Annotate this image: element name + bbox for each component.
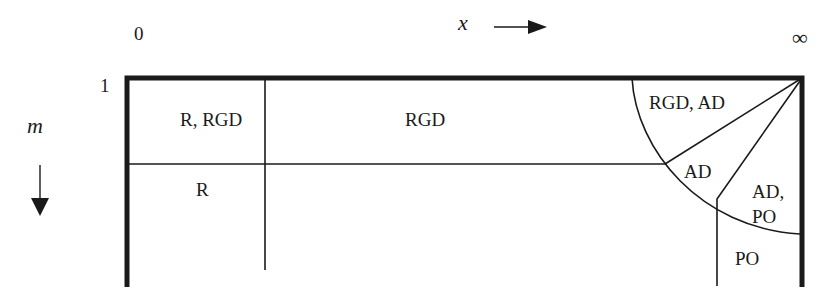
ray-upper xyxy=(665,78,802,164)
m-axis-variable-label: m xyxy=(27,115,43,137)
region-r-label: R xyxy=(196,180,209,199)
diagram-lines xyxy=(0,0,834,299)
x-axis-infinity-label: ∞ xyxy=(792,27,808,49)
region-rgd-label: RGD xyxy=(405,110,445,129)
region-po-label: PO xyxy=(735,249,759,268)
region-ad-label: AD xyxy=(684,162,711,181)
region-ad-po-label-line2: PO xyxy=(752,207,776,226)
region-r-rgd-label: R, RGD xyxy=(180,110,242,129)
arrow-right-icon xyxy=(494,20,547,34)
region-ad-po-label-line1: AD, xyxy=(752,182,784,201)
arrow-down-icon xyxy=(31,165,49,216)
x-axis-variable-label: x xyxy=(458,12,468,34)
m-axis-one-label: 1 xyxy=(100,76,110,95)
region-rgd-ad-label: RGD, AD xyxy=(649,93,725,112)
x-axis-zero-label: 0 xyxy=(134,24,144,43)
